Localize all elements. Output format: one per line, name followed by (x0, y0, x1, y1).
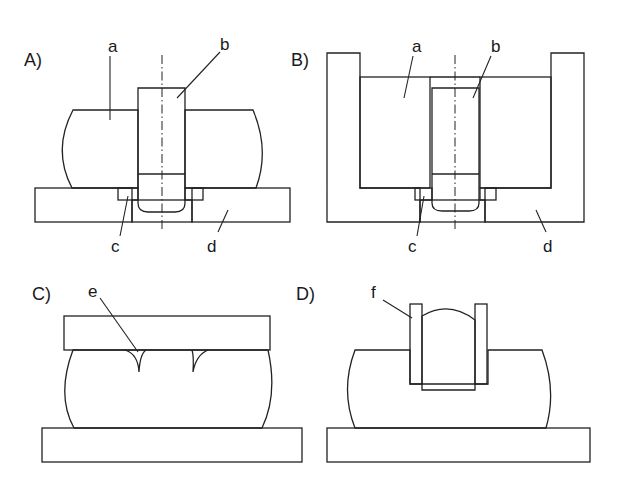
lower-plate (327, 428, 590, 462)
workpiece (348, 350, 551, 428)
label-d: d (207, 237, 216, 256)
label-a: a (412, 37, 422, 56)
label-c: c (111, 237, 120, 256)
tubes-f (410, 304, 487, 384)
panel-d-label: D) (296, 284, 315, 304)
upper-plate (64, 316, 270, 350)
label-e: e (88, 282, 97, 301)
label-a: a (108, 37, 118, 56)
panel-a-label: A) (24, 50, 42, 70)
panel-a: A) a b c d (24, 35, 290, 256)
label-b: b (220, 35, 229, 54)
workpiece (65, 350, 272, 428)
ring-c (118, 188, 203, 200)
panel-b: B) a b c d (291, 37, 584, 256)
label-c: c (408, 237, 417, 256)
panel-b-label: B) (291, 50, 309, 70)
panel-c-label: C) (32, 284, 51, 304)
extruded-boss (422, 309, 475, 384)
lower-plate (42, 428, 302, 462)
label-d: d (543, 237, 552, 256)
label-f: f (371, 283, 376, 302)
panel-d: D) f (296, 283, 590, 462)
forming-diagram: A) a b c d B) (0, 0, 619, 500)
label-b: b (491, 37, 500, 56)
flash-e (125, 350, 208, 372)
panel-c: C) e (32, 282, 302, 462)
